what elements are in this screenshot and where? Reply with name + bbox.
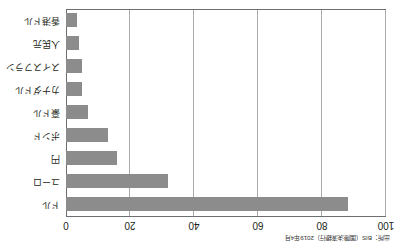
- bar: [66, 151, 117, 165]
- bar-row: [67, 170, 386, 193]
- category-label: 豪ドル: [33, 108, 60, 118]
- x-tick-label: 40: [188, 220, 199, 231]
- category-label: ドル: [42, 200, 60, 210]
- bar: [66, 82, 82, 96]
- bar-row: [67, 77, 386, 100]
- bar-row: [67, 31, 386, 54]
- bar-row: [67, 147, 386, 170]
- bar: [66, 105, 88, 119]
- category-label: ユーロ: [33, 177, 60, 187]
- bar-row: [67, 100, 386, 123]
- x-tick-label: 20: [124, 220, 135, 231]
- category-label: 香港ドル: [24, 16, 60, 26]
- bars-layer: [67, 10, 386, 216]
- category-label: ポンド: [33, 131, 60, 141]
- x-tick-label: 0: [63, 220, 69, 231]
- category-label: スイスフラン: [6, 62, 60, 72]
- bar: [66, 128, 108, 142]
- bar-row: [67, 54, 386, 77]
- plot-box: [66, 9, 386, 217]
- bar: [66, 197, 348, 211]
- rotated-bar-chart-figure: 出所：BIS（国際決済銀行）2019年4月 020406080100 ドルユーロ…: [0, 0, 398, 245]
- category-axis-labels: ドルユーロ円ポンド豪ドルカナダドルスイスフラン人民元香港ドル: [2, 9, 64, 217]
- bar-row: [67, 8, 386, 31]
- bar-row: [67, 124, 386, 147]
- bar: [66, 13, 77, 27]
- chart-area: 020406080100: [66, 7, 386, 231]
- x-tick-label: 80: [316, 220, 327, 231]
- source-note: 出所：BIS（国際決済銀行）2019年4月: [285, 234, 390, 243]
- category-label: 円: [51, 154, 60, 164]
- bar: [66, 59, 82, 73]
- x-tick-label: 100: [378, 220, 395, 231]
- bar-row: [67, 193, 386, 216]
- category-label: 人民元: [33, 39, 60, 49]
- x-axis-tick-labels: 020406080100: [66, 217, 386, 231]
- x-tick-label: 60: [252, 220, 263, 231]
- category-label: カナダドル: [15, 85, 60, 95]
- bar: [66, 174, 168, 188]
- bar: [66, 36, 79, 50]
